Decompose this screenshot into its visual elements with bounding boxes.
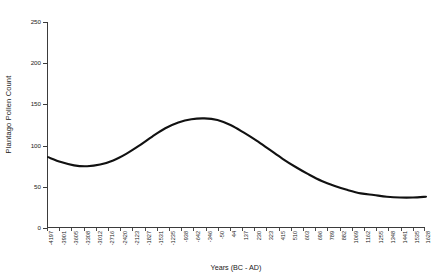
x-tick-label: -2123 [135,231,141,245]
x-tick-label: 789 [330,231,336,240]
x-tick-label: -1235 [171,231,177,245]
y-axis-tick-labels: 050100150200250 [18,22,44,228]
x-tick-label: 1069 [354,231,360,243]
x-tick-label: 323 [269,231,275,240]
pollen-count-line-chart: Plantago Pollen Count 050100150200250 -4… [0,0,442,280]
x-tick-label: -1531 [159,231,165,245]
x-tick-label: -50 [220,231,226,239]
x-tick-label: 510 [293,231,299,240]
y-axis-title: Plantago Pollen Count [0,0,18,228]
y-tick-mark [43,104,47,105]
x-tick-label: 1255 [379,231,385,243]
x-tick-label: 230 [257,231,263,240]
x-tick-label: 137 [244,231,250,240]
x-tick-label: -938 [184,231,190,242]
x-tick-label: -3012 [98,231,104,245]
x-tick-label: 882 [342,231,348,240]
y-tick-mark [43,146,47,147]
plot-area [47,22,425,228]
x-tick-label: 603 [305,231,311,240]
x-tick-label: -346 [208,231,214,242]
x-tick-label: 1348 [391,231,397,243]
x-axis-title: Years (BC - AD) [47,263,425,272]
x-tick-label: -1827 [147,231,153,245]
y-tick-mark [43,22,47,23]
y-axis-title-label: Plantago Pollen Count [5,75,14,153]
x-tick-label: 1535 [415,231,421,243]
y-tick-label: 0 [38,225,41,231]
x-tick-label: -2716 [110,231,116,245]
x-tick-label: -642 [196,231,202,242]
y-tick-label: 200 [31,60,41,66]
pollen-curve-line [48,118,426,197]
y-tick-mark [43,187,47,188]
y-tick-label: 100 [31,142,41,148]
y-tick-mark [43,228,47,229]
x-tick-label: 1162 [366,231,372,243]
x-tick-label: 44 [232,231,238,237]
pollen-curve-svg [48,22,426,228]
x-tick-label: 415 [281,231,287,240]
x-tick-label: 1441 [403,231,409,243]
x-axis-tick-labels: -4197-3901-3605-3308-3012-2716-2420-2123… [47,231,425,261]
y-tick-label: 250 [31,19,41,25]
x-tick-label: -3901 [62,231,68,245]
x-tick-label: 696 [318,231,324,240]
y-tick-label: 150 [31,101,41,107]
x-tick-label: -2420 [123,231,129,245]
x-tick-label: -3605 [74,231,80,245]
x-tick-label: -3308 [86,231,92,245]
x-tick-label: 1628 [426,231,432,243]
x-tick-label: -4197 [49,231,55,245]
y-tick-mark [43,63,47,64]
y-tick-label: 50 [34,184,41,190]
